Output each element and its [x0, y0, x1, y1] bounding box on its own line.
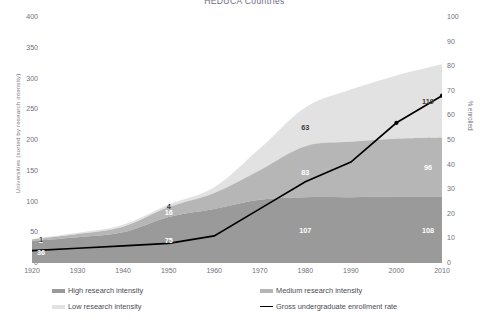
y-axis-right-tick: 10 [447, 234, 487, 241]
legend-item-low-research-intensity[interactable]: Low research intensity [52, 302, 142, 311]
legend-item-high-research-intensity[interactable]: High research intensity [52, 286, 143, 295]
y-axis-right-tick: 80 [447, 62, 487, 69]
legend-swatch-low-icon [52, 305, 65, 309]
data-label: 63 [301, 122, 309, 131]
data-label: 4 [167, 201, 171, 210]
legend-label-medium: Medium research intensity [276, 286, 362, 295]
area-high-research-intensity [32, 197, 442, 263]
chart-plot-svg [32, 17, 442, 263]
legend-label-high: High research intensity [68, 286, 143, 295]
enrollment-rate-marker [394, 121, 398, 125]
x-axis-tick: 2010 [422, 267, 462, 274]
chart-title: HEDUCA Countries [0, 0, 489, 6]
legend-swatch-high-icon [52, 289, 65, 293]
y-axis-right-tick: 0 [447, 259, 487, 266]
chart-container: HEDUCA Countries Universities (sorted by… [0, 0, 489, 324]
y-axis-right-tick: 70 [447, 87, 487, 94]
legend-label-rate: Gross undergraduate enrollment rate [276, 302, 397, 311]
chart-legend: High research intensity Medium research … [52, 286, 452, 320]
data-label: 108 [422, 225, 434, 234]
x-axis-tick: 1920 [12, 267, 52, 274]
data-label: 36 [37, 247, 45, 256]
data-label: 96 [424, 163, 432, 172]
y-axis-right-tick: 50 [447, 136, 487, 143]
x-axis-tick: 1930 [58, 267, 98, 274]
y-axis-right-tick: 40 [447, 161, 487, 168]
y-axis-right-tick: 20 [447, 210, 487, 217]
legend-swatch-medium-icon [260, 289, 273, 293]
legend-item-enrollment-rate[interactable]: Gross undergraduate enrollment rate [260, 302, 397, 311]
y-axis-right-tick: 100 [447, 13, 487, 20]
y-axis-right-tick: 30 [447, 185, 487, 192]
x-axis-tick: 1970 [240, 267, 280, 274]
data-label: 1 [39, 235, 43, 244]
x-axis-tick: 1950 [149, 267, 189, 274]
x-axis-tick: 1980 [285, 267, 325, 274]
x-axis-tick: 1940 [103, 267, 143, 274]
x-axis-tick: 1960 [194, 267, 234, 274]
legend-swatch-line-icon [260, 306, 273, 308]
legend-label-low: Low research intensity [68, 302, 142, 311]
data-label: 107 [299, 226, 311, 235]
x-axis-tick: 2000 [376, 267, 416, 274]
data-label: 83 [301, 167, 309, 176]
legend-item-medium-research-intensity[interactable]: Medium research intensity [260, 286, 362, 295]
plot-area: 367510710821683961463119 [32, 17, 442, 263]
y-axis-right-tick: 60 [447, 111, 487, 118]
x-axis-tick: 1990 [331, 267, 371, 274]
data-label: 75 [165, 235, 173, 244]
data-label: 119 [422, 96, 434, 105]
stacked-areas-group [32, 64, 442, 263]
y-axis-right-tick: 90 [447, 38, 487, 45]
